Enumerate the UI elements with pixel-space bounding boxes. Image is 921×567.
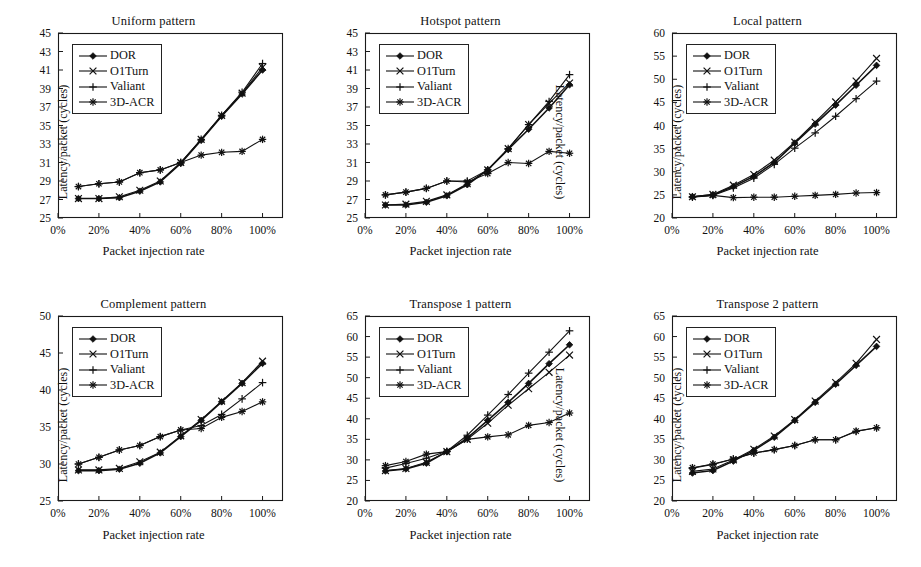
- y-tick-label: 20: [654, 212, 666, 224]
- legend-item-3d-acr[interactable]: 3D-ACR: [78, 95, 154, 111]
- y-tick-label: 55: [347, 351, 359, 363]
- x-tick-label: 100%: [863, 224, 890, 236]
- y-tick-label: 37: [40, 101, 52, 113]
- x-tick-label: 60%: [477, 224, 499, 236]
- legend-marker-filled-diamond-icon: [78, 49, 108, 63]
- legend-item-valiant[interactable]: Valiant: [385, 79, 461, 95]
- legend-item-o1turn[interactable]: O1Turn: [78, 64, 154, 80]
- series-line: [692, 428, 876, 468]
- legend-item-dor[interactable]: DOR: [692, 331, 768, 347]
- x-tick-label: 60%: [170, 224, 192, 236]
- legend-label: O1Turn: [108, 347, 149, 362]
- x-axis-label: Packet injection rate: [307, 528, 614, 543]
- y-tick-label: 35: [654, 143, 666, 155]
- y-tick-label: 40: [347, 413, 359, 425]
- series-line: [385, 151, 569, 194]
- y-tick-label: 27: [347, 194, 359, 206]
- legend-item-dor[interactable]: DOR: [692, 48, 768, 64]
- y-tick-label: 25: [654, 474, 666, 486]
- legend-item-dor[interactable]: DOR: [78, 331, 154, 347]
- chart-panel-5: Transpose 1 patternLatency/packet (cycle…: [307, 283, 614, 567]
- x-axis-label: Packet injection rate: [307, 244, 614, 259]
- legend-label: DOR: [722, 331, 750, 346]
- legend-item-dor[interactable]: DOR: [78, 48, 154, 64]
- legend-item-o1turn[interactable]: O1Turn: [78, 347, 154, 363]
- legend-label: DOR: [108, 48, 136, 63]
- legend-label: Valiant: [108, 362, 145, 377]
- y-tick-label: 25: [347, 474, 359, 486]
- legend-item-valiant[interactable]: Valiant: [78, 79, 154, 95]
- legend-label: 3D-ACR: [415, 378, 461, 393]
- legend: DORO1TurnValiant3D-ACR: [72, 327, 162, 397]
- legend-marker-plus-icon: [385, 363, 415, 377]
- x-tick-label: 20%: [88, 224, 110, 236]
- legend-item-valiant[interactable]: Valiant: [692, 79, 768, 95]
- x-tick-label: 100%: [556, 507, 583, 519]
- legend-item-o1turn[interactable]: O1Turn: [692, 347, 768, 363]
- x-axis-label: Packet injection rate: [614, 244, 921, 259]
- y-tick-label: 35: [347, 120, 359, 132]
- y-tick-label: 41: [347, 64, 359, 76]
- x-tick-label: 0%: [664, 224, 680, 236]
- legend-item-o1turn[interactable]: O1Turn: [385, 347, 461, 363]
- x-tick-label: 0%: [50, 224, 66, 236]
- chart-panel-4: Complement patternLatency/packet (cycles…: [0, 283, 307, 567]
- y-tick-label: 37: [347, 101, 359, 113]
- legend-label: 3D-ACR: [415, 95, 461, 110]
- legend-item-o1turn[interactable]: O1Turn: [385, 64, 461, 80]
- x-tick-label: 20%: [702, 507, 724, 519]
- y-tick-label: 39: [40, 83, 52, 95]
- legend-item-valiant[interactable]: Valiant: [78, 362, 154, 378]
- legend-label: Valiant: [108, 79, 145, 94]
- series-3d-acr: [75, 136, 266, 191]
- x-tick-label: 20%: [395, 507, 417, 519]
- y-tick-label: 35: [654, 433, 666, 445]
- x-tick-label: 80%: [518, 224, 540, 236]
- x-tick-label: 40%: [129, 224, 151, 236]
- y-tick-label: 25: [40, 495, 52, 507]
- y-tick-label: 60: [654, 27, 666, 39]
- x-tick-label: 60%: [784, 224, 806, 236]
- y-tick-label: 65: [654, 310, 666, 322]
- legend-item-3d-acr[interactable]: 3D-ACR: [78, 378, 154, 394]
- x-tick-label: 40%: [743, 224, 765, 236]
- y-tick-label: 65: [347, 310, 359, 322]
- legend-marker-plus-icon: [78, 80, 108, 94]
- y-tick-label: 50: [347, 372, 359, 384]
- legend-label: O1Turn: [722, 347, 763, 362]
- legend-item-valiant[interactable]: Valiant: [385, 362, 461, 378]
- y-tick-label: 40: [654, 120, 666, 132]
- y-tick-label: 45: [654, 392, 666, 404]
- x-axis-label: Packet injection rate: [0, 528, 307, 543]
- legend: DORO1TurnValiant3D-ACR: [686, 44, 776, 114]
- legend-marker-plus-icon: [692, 80, 722, 94]
- y-tick-label: 60: [654, 331, 666, 343]
- legend-item-3d-acr[interactable]: 3D-ACR: [385, 95, 461, 111]
- legend-label: Valiant: [722, 362, 759, 377]
- y-tick-label: 35: [347, 433, 359, 445]
- chart-panel-6: Transpose 2 patternLatency/packet (cycle…: [614, 283, 921, 567]
- legend-label: DOR: [722, 48, 750, 63]
- y-tick-label: 25: [654, 189, 666, 201]
- legend-marker-x-cross-icon: [692, 64, 722, 78]
- legend-item-dor[interactable]: DOR: [385, 331, 461, 347]
- legend-item-valiant[interactable]: Valiant: [692, 362, 768, 378]
- y-tick-label: 20: [347, 495, 359, 507]
- legend-label: Valiant: [722, 79, 759, 94]
- legend-item-3d-acr[interactable]: 3D-ACR: [385, 378, 461, 394]
- legend-marker-plus-icon: [692, 363, 722, 377]
- x-tick-label: 80%: [825, 224, 847, 236]
- legend-item-3d-acr[interactable]: 3D-ACR: [692, 95, 768, 111]
- y-tick-label: 43: [347, 46, 359, 58]
- y-tick-label: 50: [654, 73, 666, 85]
- legend-item-o1turn[interactable]: O1Turn: [692, 64, 768, 80]
- legend-label: 3D-ACR: [108, 378, 154, 393]
- legend-item-3d-acr[interactable]: 3D-ACR: [692, 378, 768, 394]
- legend-marker-asterisk-icon: [692, 95, 722, 109]
- legend-item-dor[interactable]: DOR: [385, 48, 461, 64]
- series-3d-acr: [75, 398, 266, 468]
- x-tick-label: 0%: [50, 507, 66, 519]
- series-line: [78, 139, 262, 186]
- legend-marker-filled-diamond-icon: [692, 332, 722, 346]
- x-tick-label: 100%: [249, 507, 276, 519]
